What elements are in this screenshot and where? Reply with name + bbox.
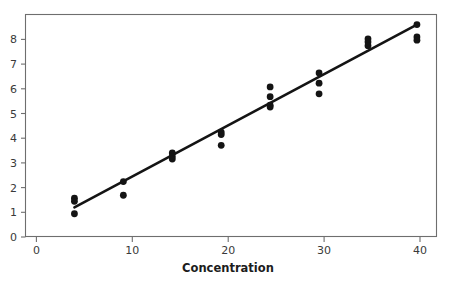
y-tick-label-3: 3 <box>10 157 17 170</box>
x-axis-title: Concentration <box>182 261 274 275</box>
x-axis-tick-labels: 0 10 20 30 40 <box>33 244 427 257</box>
x-tick-label-40: 40 <box>413 244 427 257</box>
data-point <box>71 210 78 217</box>
x-tick-label-10: 10 <box>125 244 139 257</box>
data-point <box>218 142 225 149</box>
data-point <box>267 84 274 91</box>
x-axis-ticks <box>36 237 420 243</box>
data-point <box>267 104 274 111</box>
y-tick-label-4: 4 <box>10 132 17 145</box>
x-tick-label-30: 30 <box>317 244 331 257</box>
y-axis-tick-labels: 0 1 2 3 4 5 6 7 8 <box>10 33 17 244</box>
data-point <box>316 70 323 77</box>
x-tick-label-0: 0 <box>33 244 40 257</box>
data-point <box>120 192 127 199</box>
data-point <box>316 80 323 87</box>
data-point <box>267 93 274 100</box>
chart-figure: 0 1 2 3 4 5 6 7 8 0 10 20 30 40 Concentr <box>0 0 452 281</box>
y-axis-ticks <box>21 39 26 237</box>
data-point <box>169 156 176 163</box>
y-tick-label-1: 1 <box>10 206 17 219</box>
scatter-plot-canvas: 0 1 2 3 4 5 6 7 8 0 10 20 30 40 Concentr <box>0 0 452 281</box>
data-point <box>316 90 323 97</box>
data-point <box>414 21 421 28</box>
y-tick-label-6: 6 <box>10 83 17 96</box>
y-tick-label-2: 2 <box>10 182 17 195</box>
y-tick-label-0: 0 <box>10 231 17 244</box>
data-point <box>218 131 225 138</box>
data-point <box>365 42 372 49</box>
y-tick-label-5: 5 <box>10 108 17 121</box>
y-tick-label-8: 8 <box>10 33 17 46</box>
x-tick-label-20: 20 <box>221 244 235 257</box>
data-point <box>120 178 127 185</box>
data-point <box>71 198 78 205</box>
y-tick-label-7: 7 <box>10 58 17 71</box>
data-point <box>414 37 421 44</box>
